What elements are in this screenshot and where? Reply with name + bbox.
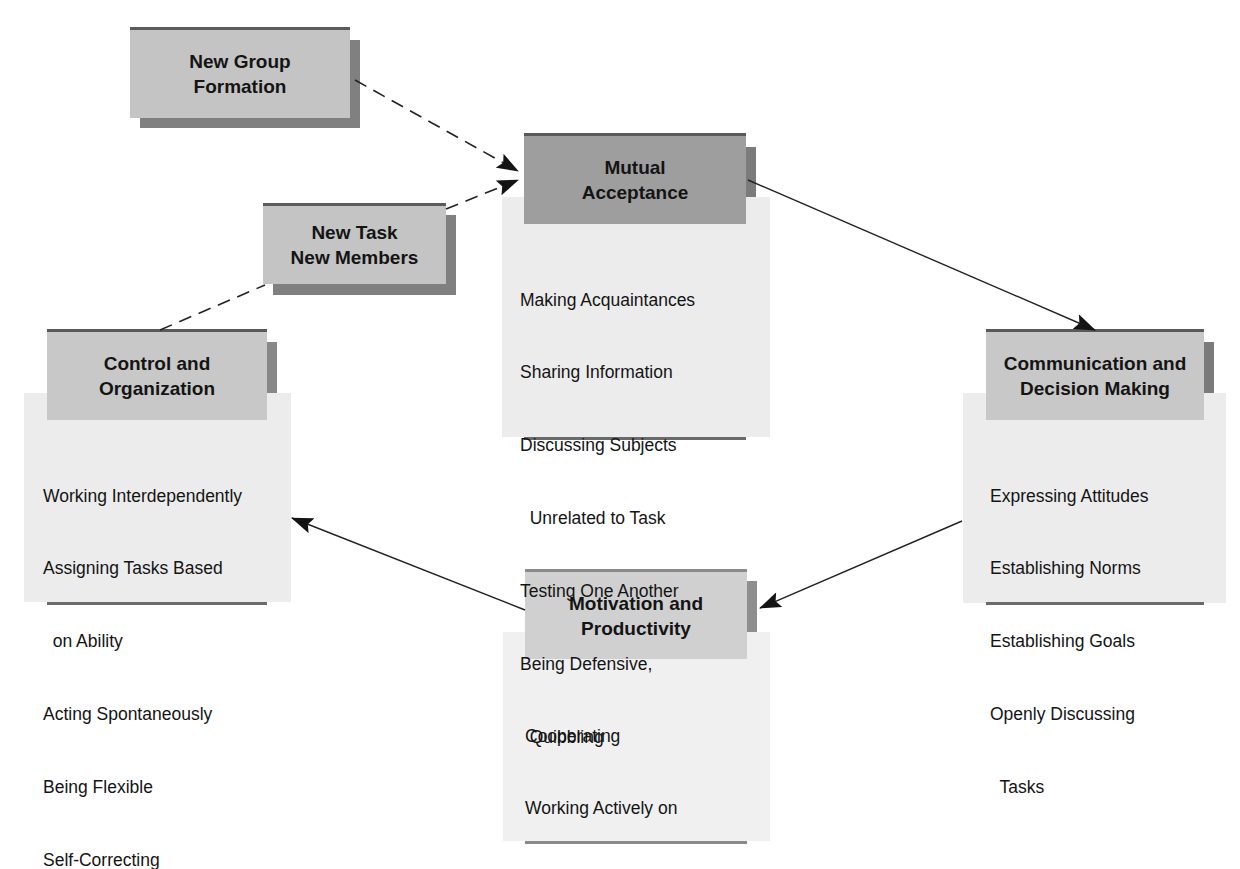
dashed-line-control-to-new-task	[160, 285, 265, 330]
connector-arrows	[0, 0, 1240, 869]
arrow-motivation-to-control	[292, 518, 525, 610]
dashed-arrow-new-group-to-mutual	[355, 80, 518, 171]
dashed-arrow-new-task-to-mutual	[446, 180, 518, 209]
arrow-mutual-to-communication	[748, 180, 1095, 330]
arrow-communication-to-motivation	[760, 521, 962, 608]
